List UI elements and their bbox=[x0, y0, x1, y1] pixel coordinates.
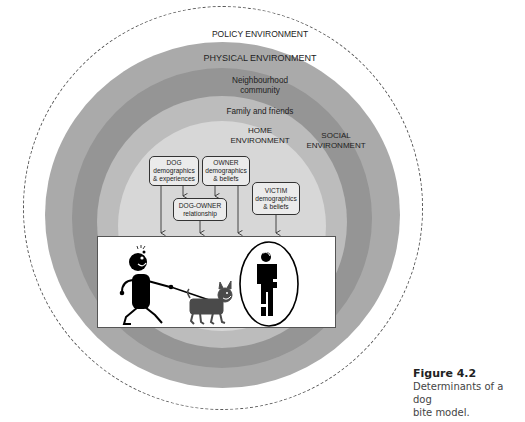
arrows-layer bbox=[0, 0, 525, 422]
victim-icon bbox=[240, 242, 298, 326]
figure-caption-text-line1: Determinants of a dog bbox=[413, 380, 523, 406]
figure-caption-title: Figure 4.2 bbox=[413, 367, 523, 380]
figure-caption: Figure 4.2 Determinants of a dog bite mo… bbox=[413, 367, 523, 419]
dog-bite-determinants-diagram: POLICY ENVIRONMENT PHYSICAL ENVIRONMENT … bbox=[0, 0, 525, 422]
dog-icon bbox=[188, 281, 232, 324]
figure-caption-text-line2: bite model. bbox=[413, 406, 523, 419]
bite-scene-illustration bbox=[97, 236, 336, 328]
